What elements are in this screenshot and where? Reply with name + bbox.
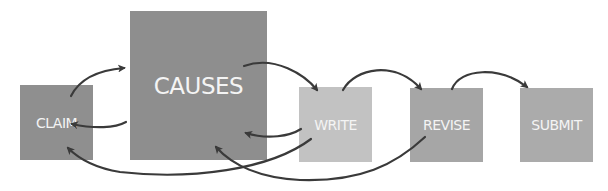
arrow-revise-to-submit <box>452 72 527 89</box>
arrow-write-to-causes <box>246 129 301 137</box>
arrow-write-to-revise <box>343 70 421 90</box>
flow-diagram: CLAIM CAUSES WRITE REVISE SUBMIT <box>0 0 608 191</box>
arrow-causes-to-write <box>244 63 317 90</box>
arrow-causes-to-claim <box>72 122 126 127</box>
arrow-write-to-claim <box>68 139 311 175</box>
arrows-layer <box>0 0 608 191</box>
arrow-claim-to-causes <box>71 68 124 96</box>
arrow-revise-to-causes <box>216 137 425 180</box>
